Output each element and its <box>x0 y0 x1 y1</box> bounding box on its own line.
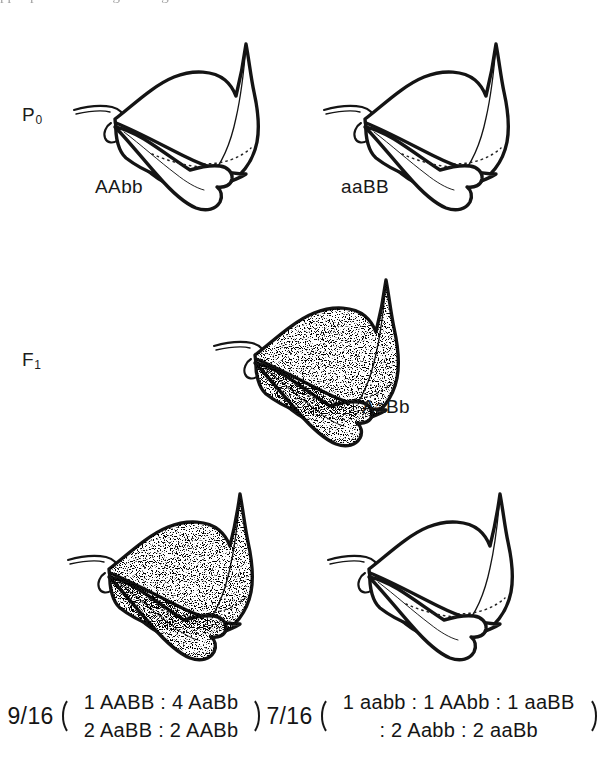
flower-f2-left-colored <box>62 472 262 672</box>
ratio-line: 1 aabb : 1 AAbb : 1 aaBB <box>343 690 575 714</box>
pigment-stipple <box>109 494 252 660</box>
generation-label-f1-letter: F <box>22 349 34 370</box>
ratio-lines-colored: 1 AABB : 4 AaBb 2 AaBB : 2 AABb <box>79 690 244 742</box>
flower-f2-right-white <box>322 472 522 672</box>
figure-root: pp p g g <box>0 0 602 770</box>
ratio-fraction-white: 7/16 <box>262 703 316 730</box>
ratio-fraction-colored: 9/16 <box>3 703 57 730</box>
ratio-lines-white: 1 aabb : 1 AAbb : 1 aaBB : 2 Aabb : 2 aa… <box>338 690 580 742</box>
generation-label-p0: P0 <box>22 104 42 126</box>
bracket-left-close <box>245 690 262 742</box>
flower-outline <box>328 494 512 660</box>
ratio-group-white: 7/16 1 aabb : 1 AAbb : 1 aaBB : 2 Aabb :… <box>262 690 598 742</box>
bracket-left-open <box>60 690 77 742</box>
genotype-label-p0-right: aaBB <box>341 176 389 198</box>
genotype-label-p0-left: AAbb <box>95 176 143 198</box>
ratio-line: 1 AABB : 4 AaBb <box>84 690 239 714</box>
cropped-caption-text: pp p g g <box>0 0 169 4</box>
generation-label-f1-subscript: 1 <box>34 358 41 372</box>
bracket-right-open <box>319 690 336 742</box>
cropped-caption-artifact: pp p g g <box>0 0 602 6</box>
f2-ratio-row: 9/16 1 AABB : 4 AaBb 2 AaBB : 2 AABb 7/1… <box>0 674 602 758</box>
bracket-right-close <box>582 690 599 742</box>
generation-label-f1: F1 <box>22 349 41 371</box>
generation-label-p0-letter: P <box>22 104 35 125</box>
genotype-label-f1: AaBb <box>362 396 410 418</box>
ratio-group-colored: 9/16 1 AABB : 4 AaBb 2 AaBB : 2 AABb <box>3 690 262 742</box>
pigment-stipple <box>255 280 398 446</box>
flower-f1-aabb-colored <box>208 258 408 458</box>
generation-label-p0-subscript: 0 <box>35 113 42 127</box>
ratio-line: : 2 Aabb : 2 aaBb <box>343 718 575 742</box>
ratio-line: 2 AaBB : 2 AABb <box>84 718 239 742</box>
